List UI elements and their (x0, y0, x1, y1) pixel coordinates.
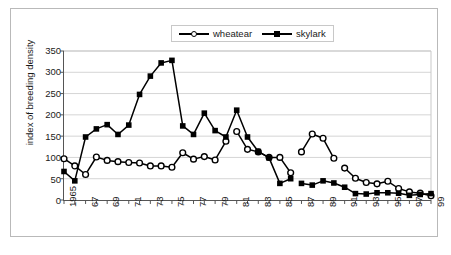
data-point-marker (353, 175, 359, 181)
x-tick-label: 69 (110, 196, 121, 207)
plot-svg (64, 51, 431, 200)
data-point-marker (126, 122, 132, 128)
data-point-marker (374, 190, 380, 196)
y-tick-label: 50 (35, 175, 61, 185)
data-point-marker (83, 134, 89, 140)
data-point-marker (72, 178, 78, 184)
data-point-marker (320, 178, 326, 184)
series-line (64, 60, 291, 183)
chart-figure: wheatear skylark index of breeding densi… (0, 0, 451, 255)
data-point-marker (234, 107, 240, 113)
data-point-marker (407, 193, 413, 199)
data-point-marker (363, 191, 369, 197)
data-point-marker (137, 160, 143, 166)
data-point-marker (104, 122, 110, 128)
x-tick-label: 95 (392, 196, 403, 207)
data-point-marker (115, 132, 121, 138)
data-point-marker (93, 154, 99, 160)
data-point-marker (180, 150, 186, 156)
data-point-marker (256, 149, 262, 155)
data-point-marker (212, 157, 218, 163)
data-point-marker (147, 163, 153, 169)
legend-item-skylark: skylark (262, 28, 326, 39)
x-tick-label: 71 (132, 196, 143, 207)
legend-marker-filled-square-icon (262, 28, 292, 39)
data-point-marker (94, 126, 100, 132)
x-tick-label: 67 (89, 196, 100, 207)
data-point-marker (148, 73, 154, 79)
data-point-marker (61, 156, 67, 162)
y-axis-tick-labels: 350300250200150100500 (31, 9, 61, 236)
x-tick-label: 93 (370, 196, 381, 207)
y-tick-label: 350 (35, 46, 61, 56)
data-point-marker (223, 134, 229, 140)
data-point-marker (191, 156, 197, 162)
data-point-marker (331, 180, 337, 186)
data-point-marker (385, 190, 391, 196)
data-point-marker (428, 191, 434, 197)
data-point-marker (169, 58, 175, 64)
plot-area (63, 51, 431, 201)
data-point-marker (342, 165, 348, 171)
legend-marker-open-circle-icon (179, 28, 209, 39)
x-tick-label: 73 (154, 196, 165, 207)
data-point-marker (245, 146, 251, 152)
data-point-marker (169, 164, 175, 170)
chart-outer-frame: wheatear skylark index of breeding densi… (10, 8, 438, 237)
legend-item-wheatear: wheatear (179, 28, 252, 39)
data-point-marker (288, 176, 294, 182)
data-point-marker (299, 181, 305, 187)
y-tick-label: 150 (35, 132, 61, 142)
data-point-marker (115, 159, 121, 165)
x-tick-label: 77 (197, 196, 208, 207)
data-point-marker (342, 184, 348, 190)
data-point-marker (396, 190, 402, 196)
data-point-marker (320, 135, 326, 141)
y-tick-label: 200 (35, 110, 61, 120)
series-line (301, 134, 333, 158)
data-point-marker (363, 180, 369, 186)
data-point-marker (212, 128, 218, 134)
data-point-marker (385, 178, 391, 184)
data-point-marker (158, 163, 164, 169)
data-point-marker (277, 181, 283, 187)
x-tick-label: 87 (305, 196, 316, 207)
data-point-marker (234, 129, 240, 135)
x-tick-label: 81 (240, 196, 251, 207)
x-axis-tick-labels: 19656769717375777981838587899193959799 (63, 201, 431, 247)
data-point-marker (61, 169, 67, 175)
data-point-marker (266, 155, 272, 161)
data-point-marker (309, 182, 315, 188)
data-point-marker (288, 170, 294, 176)
data-point-marker (374, 181, 380, 187)
data-point-marker (191, 132, 197, 138)
x-tick-label: 1965 (67, 186, 78, 207)
series-skylark (61, 58, 434, 199)
data-point-marker (126, 160, 132, 166)
x-tick-label: 89 (327, 196, 338, 207)
x-tick-label: 97 (413, 196, 424, 207)
data-point-marker (201, 154, 207, 160)
data-point-marker (180, 123, 186, 129)
x-tick-label: 91 (348, 196, 359, 207)
data-point-marker (137, 92, 143, 98)
x-tick-label: 75 (175, 196, 186, 207)
x-tick-label: 79 (219, 196, 230, 207)
data-point-marker (72, 163, 78, 169)
chart-legend: wheatear skylark (171, 25, 334, 42)
data-point-marker (309, 131, 315, 137)
x-tick-label: 85 (283, 196, 294, 207)
legend-label-skylark: skylark (296, 28, 326, 39)
y-tick-label: 250 (35, 89, 61, 99)
y-tick-label: 300 (35, 67, 61, 77)
data-point-marker (202, 110, 208, 116)
data-point-marker (277, 155, 283, 161)
legend-label-wheatear: wheatear (213, 28, 252, 39)
data-point-marker (104, 158, 110, 164)
data-point-marker (245, 134, 251, 140)
data-point-marker (158, 60, 164, 66)
y-tick-label: 0 (35, 196, 61, 206)
x-tick-label: 83 (262, 196, 273, 207)
data-point-marker (83, 172, 89, 178)
x-tick-label: 99 (435, 196, 446, 207)
